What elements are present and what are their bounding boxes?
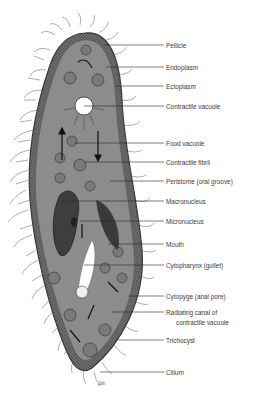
artist-signature: Jds: [98, 381, 105, 386]
label-radiating-canal-cont: contractile vacuole: [176, 319, 229, 326]
label-trichocyst: Trichocyst: [166, 337, 195, 344]
label-contractile-vacuole: Contractile vacuole: [166, 103, 220, 110]
label-pellicle: Pellicle: [166, 42, 186, 49]
paramecium-diagram: [0, 0, 254, 399]
gullet-vacuole: [76, 286, 88, 298]
label-cilium: Cilium: [166, 369, 184, 376]
label-peristome: Peristome (oral groove): [166, 178, 233, 185]
label-food-vacuole: Food vacuole: [166, 140, 204, 147]
label-endoplasm: Endoplasm: [166, 64, 198, 71]
label-micronucleus: Micronucleus: [166, 218, 204, 225]
label-radiating-canal: Radiating canal of: [166, 309, 217, 316]
label-cytopyge: Cytopyge (anal pore): [166, 293, 226, 300]
label-macronucleus: Macronucleus: [166, 198, 206, 205]
label-contractile-fibril: Contractile fibril: [166, 159, 210, 166]
label-mouth: Mouth: [166, 241, 184, 248]
micronucleus: [71, 217, 77, 227]
label-cytopharynx: Cytopharynx (gullet): [166, 262, 223, 269]
label-ectoplasm: Ectoplasm: [166, 83, 196, 90]
